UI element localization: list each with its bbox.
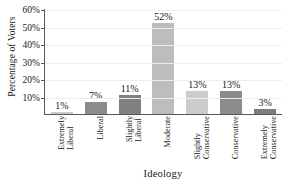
x-category-label: Conservative	[231, 116, 240, 159]
x-category-label-line: Slightly	[193, 116, 202, 159]
x-category-label: ExtremelyConservative	[260, 116, 279, 159]
x-category-label-line: Liberal	[134, 116, 143, 142]
x-category-slot: Conservative	[214, 116, 248, 168]
x-category-label-line: Slightly	[125, 116, 134, 142]
x-category-slot: Liberal	[79, 116, 113, 168]
x-category-label-line: Conservative	[270, 116, 279, 159]
y-tick-label: 30%	[14, 58, 40, 68]
gridline	[45, 80, 282, 81]
x-category-slot: ExtremelyConservative	[248, 116, 282, 168]
x-category-label: SlightlyConservative	[193, 116, 212, 159]
x-category-label: Liberal	[96, 116, 105, 140]
y-tick-mark	[41, 28, 44, 29]
bar[interactable]	[220, 91, 242, 114]
x-category-label-line: Liberal	[67, 116, 76, 150]
y-tick-mark	[41, 45, 44, 46]
y-tick-label: 10%	[14, 93, 40, 103]
x-category-label-line: Extremely	[260, 116, 269, 159]
x-axis-title: Ideology	[44, 167, 282, 180]
y-tick-mark	[41, 80, 44, 81]
gridline	[45, 63, 282, 64]
x-category-label: Moderate	[163, 116, 172, 147]
bar[interactable]	[186, 91, 208, 114]
bar[interactable]	[152, 23, 174, 114]
x-category-label: SlightlyLiberal	[125, 116, 144, 142]
x-category-label-line: Liberal	[96, 116, 105, 140]
gridline	[45, 98, 282, 99]
y-tick-label: 50%	[14, 23, 40, 33]
x-category-label-line: Conservative	[202, 116, 211, 159]
x-axis-category-labels: ExtremelyLiberalLiberalSlightlyLiberalMo…	[45, 116, 282, 168]
gridline	[45, 28, 282, 29]
x-category-slot: SlightlyConservative	[180, 116, 214, 168]
gridline	[45, 10, 282, 11]
x-category-slot: SlightlyLiberal	[113, 116, 147, 168]
y-axis-tick-labels: 10%20%30%40%50%60%	[14, 0, 40, 184]
plot-area: 1%7%11%52%13%13%3%	[44, 9, 282, 115]
bar-value-label: 11%	[110, 83, 150, 94]
x-category-label: ExtremelyLiberal	[57, 116, 76, 150]
y-tick-mark	[41, 98, 44, 99]
y-tick-label: 60%	[14, 5, 40, 15]
y-tick-mark	[41, 10, 44, 11]
bar[interactable]	[85, 102, 107, 114]
bar[interactable]	[254, 109, 276, 114]
x-axis-line	[44, 114, 282, 115]
x-category-slot: Moderate	[147, 116, 181, 168]
x-category-label-line: Moderate	[163, 116, 172, 147]
gridline	[45, 45, 282, 46]
bar-chart: Percentage of Voters 10%20%30%40%50%60% …	[0, 0, 287, 184]
y-tick-mark	[41, 63, 44, 64]
bar[interactable]	[51, 112, 73, 114]
x-category-label-line: Extremely	[57, 116, 66, 150]
y-tick-label: 40%	[14, 40, 40, 50]
bar-value-label: 52%	[143, 11, 183, 22]
x-category-slot: ExtremelyLiberal	[45, 116, 79, 168]
x-category-label-line: Conservative	[231, 116, 240, 159]
y-tick-label: 20%	[14, 75, 40, 85]
bar-value-label: 1%	[42, 100, 82, 111]
